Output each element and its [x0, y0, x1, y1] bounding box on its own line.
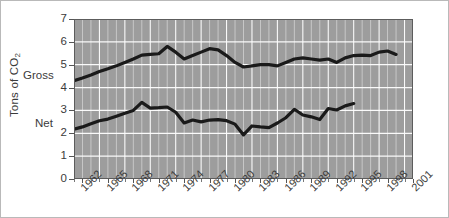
y-tick-label: 3	[47, 104, 67, 115]
x-tick-mark	[74, 179, 75, 182]
x-tick-mark	[176, 179, 177, 182]
y-tick-mark	[69, 156, 74, 157]
x-tick-mark	[125, 179, 126, 182]
x-tick-mark	[142, 179, 143, 182]
y-tick-mark	[69, 88, 74, 89]
x-tick-mark	[413, 179, 414, 183]
x-tick-mark	[320, 179, 321, 182]
x-tick-mark	[277, 179, 278, 182]
chart-figure: Tons of CO2 01234567 Gross Net 196219651…	[0, 0, 449, 218]
x-tick-mark	[388, 179, 389, 183]
y-tick-label: 7	[47, 13, 67, 24]
x-tick-mark	[82, 179, 83, 183]
x-tick-mark	[150, 179, 151, 182]
x-tick-mark	[303, 179, 304, 182]
x-tick-mark	[362, 179, 363, 183]
x-tick-mark	[371, 179, 372, 182]
plot-area	[74, 19, 413, 179]
x-tick-mark	[193, 179, 194, 182]
x-tick-mark	[159, 179, 160, 183]
x-tick-mark	[133, 179, 134, 183]
x-tick-mark	[167, 179, 168, 182]
x-tick-mark	[210, 179, 211, 183]
series-label-net: Net	[35, 117, 53, 129]
x-tick-mark	[405, 179, 406, 182]
x-tick-mark	[99, 179, 100, 182]
x-tick-mark	[337, 179, 338, 183]
y-tick-label: 6	[47, 36, 67, 47]
x-tick-mark	[184, 179, 185, 183]
x-tick-mark	[311, 179, 312, 183]
y-axis-title: Tons of CO2	[8, 30, 20, 140]
y-tick-mark	[69, 19, 74, 20]
x-tick-mark	[218, 179, 219, 182]
x-tick-mark	[345, 179, 346, 182]
x-tick-mark	[294, 179, 295, 182]
x-tick-mark	[91, 179, 92, 182]
y-tick-label: 4	[47, 82, 67, 93]
series-line-net	[74, 102, 354, 134]
x-tick-mark	[286, 179, 287, 183]
y-axis-title-subscript: 2	[13, 53, 22, 58]
x-tick-mark	[108, 179, 109, 183]
y-axis-title-text: Tons of CO	[8, 58, 20, 118]
x-tick-mark	[201, 179, 202, 182]
y-tick-mark	[69, 133, 74, 134]
y-tick-label: 1	[47, 150, 67, 161]
series-label-gross: Gross	[23, 69, 54, 81]
y-tick-mark	[69, 65, 74, 66]
y-tick-mark	[69, 42, 74, 43]
x-tick-mark	[396, 179, 397, 182]
x-axis-tick-labels: 1962196519681971197419771980198319861989…	[1, 179, 449, 218]
x-tick-mark	[252, 179, 253, 182]
y-tick-mark	[69, 110, 74, 111]
x-tick-mark	[227, 179, 228, 182]
plot-svg	[74, 19, 413, 179]
x-tick-mark	[269, 179, 270, 182]
x-tick-mark	[235, 179, 236, 183]
x-tick-mark	[379, 179, 380, 182]
x-tick-mark	[354, 179, 355, 182]
x-tick-mark	[116, 179, 117, 182]
x-tick-mark	[244, 179, 245, 182]
x-tick-mark	[260, 179, 261, 183]
x-tick-mark	[328, 179, 329, 182]
